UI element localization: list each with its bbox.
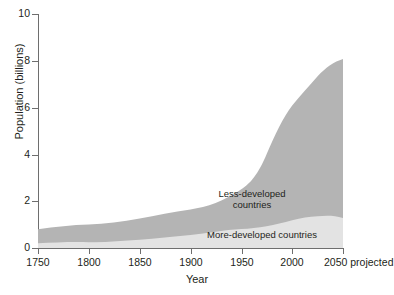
x-tick-1800 bbox=[89, 248, 90, 254]
population-growth-chart: Population (billions) 10 8 6 4 2 0 Less-… bbox=[0, 0, 394, 295]
x-axis-title: Year bbox=[0, 273, 394, 285]
x-tick-1950 bbox=[242, 248, 243, 254]
x-tick-label-1900: 1900 bbox=[179, 256, 202, 268]
x-tick-2050 bbox=[343, 248, 344, 254]
x-tick-1750 bbox=[38, 248, 39, 254]
x-tick-label-1750: 1750 bbox=[26, 256, 49, 268]
label-less-developed: Less-developed countries bbox=[196, 188, 308, 210]
y-tick-label-4: 4 bbox=[0, 149, 30, 160]
x-tick-1850 bbox=[140, 248, 141, 254]
y-tick-label-0: 0 bbox=[0, 242, 30, 253]
stacked-area-series bbox=[38, 14, 343, 248]
plot-area: Less-developed countries More-developed … bbox=[38, 14, 343, 248]
x-tick-label-2050: 2050 projected bbox=[324, 256, 393, 268]
y-tick-label-6: 6 bbox=[0, 102, 30, 113]
x-tick-2000 bbox=[292, 248, 293, 254]
x-tick-label-1800: 1800 bbox=[77, 256, 100, 268]
y-axis-title: Population (billions) bbox=[14, 17, 25, 167]
label-less-developed-line1: Less-developed bbox=[218, 188, 285, 199]
label-less-developed-line2: countries bbox=[233, 199, 272, 210]
x-tick-label-1850: 1850 bbox=[128, 256, 151, 268]
x-tick-label-1950: 1950 bbox=[230, 256, 253, 268]
x-tick-1900 bbox=[191, 248, 192, 254]
label-more-developed: More-developed countries bbox=[186, 229, 338, 240]
x-tick-label-2000: 2000 bbox=[280, 256, 303, 268]
y-tick-label-8: 8 bbox=[0, 55, 30, 66]
y-tick-label-2: 2 bbox=[0, 195, 30, 206]
y-tick-label-10: 10 bbox=[0, 8, 30, 19]
